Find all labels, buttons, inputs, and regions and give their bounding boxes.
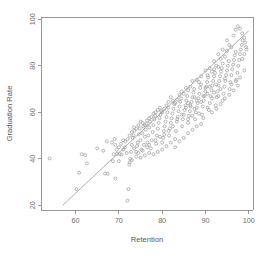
data-point bbox=[158, 117, 161, 120]
data-point bbox=[139, 156, 142, 159]
data-point bbox=[174, 146, 177, 149]
data-point bbox=[192, 91, 195, 94]
data-point bbox=[220, 67, 223, 70]
data-point bbox=[188, 110, 191, 113]
data-point bbox=[219, 103, 222, 106]
data-point bbox=[193, 96, 196, 99]
scatter-plot-figure: 6070809010020406080100RetentionGraduatio… bbox=[0, 0, 272, 258]
data-point bbox=[195, 125, 198, 128]
data-point bbox=[135, 155, 138, 158]
data-point bbox=[190, 100, 193, 103]
data-point bbox=[178, 140, 181, 143]
data-point bbox=[136, 145, 139, 148]
data-point bbox=[193, 88, 196, 91]
y-tick-label: 80 bbox=[29, 62, 38, 70]
data-point bbox=[156, 127, 159, 130]
data-point bbox=[111, 160, 114, 163]
data-point bbox=[226, 39, 229, 42]
data-point bbox=[165, 145, 168, 148]
data-point bbox=[117, 160, 120, 163]
data-point bbox=[165, 115, 168, 118]
data-point bbox=[239, 27, 242, 30]
data-point bbox=[225, 74, 228, 77]
data-point bbox=[197, 112, 200, 115]
data-point bbox=[48, 157, 51, 160]
data-point bbox=[234, 28, 237, 31]
data-point bbox=[234, 50, 237, 53]
data-point bbox=[172, 107, 175, 110]
data-point bbox=[218, 79, 221, 82]
data-point bbox=[162, 129, 165, 132]
data-point bbox=[151, 131, 154, 134]
data-point bbox=[228, 88, 231, 91]
data-point bbox=[228, 93, 231, 96]
data-point bbox=[215, 107, 218, 110]
data-point bbox=[231, 68, 234, 71]
data-point bbox=[214, 104, 217, 107]
data-point bbox=[85, 162, 88, 165]
data-point bbox=[232, 34, 235, 37]
data-point bbox=[168, 134, 171, 137]
data-point bbox=[161, 148, 164, 151]
data-point bbox=[162, 136, 165, 139]
data-point bbox=[127, 188, 130, 191]
data-point bbox=[181, 118, 184, 121]
data-point bbox=[213, 91, 216, 94]
data-point bbox=[210, 89, 213, 92]
data-point bbox=[219, 70, 222, 73]
data-point bbox=[212, 79, 215, 82]
data-point bbox=[206, 81, 209, 84]
axis-labels-layer: 6070809010020406080100RetentionGraduatio… bbox=[5, 13, 255, 244]
data-point bbox=[243, 36, 246, 39]
regression-line-layer bbox=[63, 31, 249, 205]
data-point bbox=[167, 100, 170, 103]
data-point bbox=[239, 48, 242, 51]
data-point bbox=[208, 85, 211, 88]
data-point bbox=[191, 79, 194, 82]
data-point bbox=[239, 76, 242, 79]
data-point bbox=[200, 100, 203, 103]
data-point bbox=[233, 54, 236, 57]
data-point bbox=[148, 126, 151, 129]
data-point bbox=[136, 141, 139, 144]
data-point bbox=[126, 199, 129, 202]
data-point bbox=[174, 129, 177, 132]
data-point bbox=[232, 63, 235, 66]
data-point bbox=[149, 147, 152, 150]
data-point bbox=[163, 125, 166, 128]
data-point bbox=[178, 105, 181, 108]
data-point bbox=[158, 135, 161, 138]
data-point bbox=[186, 95, 189, 98]
y-tick-label: 20 bbox=[29, 201, 38, 209]
plot-canvas: 6070809010020406080100RetentionGraduatio… bbox=[0, 0, 272, 258]
data-point bbox=[232, 89, 235, 92]
data-point bbox=[198, 92, 201, 95]
data-point bbox=[169, 96, 172, 99]
data-point bbox=[174, 138, 177, 141]
data-point bbox=[155, 142, 158, 145]
data-point bbox=[191, 128, 194, 131]
data-point bbox=[110, 141, 113, 144]
data-point bbox=[171, 125, 174, 128]
data-point bbox=[166, 111, 169, 114]
data-point bbox=[146, 146, 149, 149]
data-point bbox=[105, 140, 108, 143]
data-point bbox=[213, 68, 216, 71]
data-point bbox=[232, 59, 235, 62]
data-point bbox=[130, 143, 133, 146]
data-point bbox=[187, 132, 190, 135]
data-point bbox=[115, 148, 118, 151]
data-point bbox=[157, 121, 160, 124]
data-point bbox=[112, 153, 115, 156]
data-point bbox=[244, 41, 247, 44]
data-point bbox=[128, 134, 131, 137]
data-point bbox=[243, 53, 246, 56]
data-point bbox=[165, 104, 168, 107]
data-point bbox=[223, 97, 226, 100]
data-point bbox=[187, 114, 190, 117]
data-point bbox=[180, 113, 183, 116]
data-point bbox=[240, 43, 243, 46]
data-point bbox=[169, 121, 172, 124]
data-point bbox=[80, 153, 83, 156]
data-points-layer bbox=[48, 25, 248, 202]
